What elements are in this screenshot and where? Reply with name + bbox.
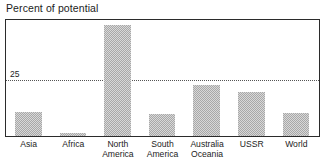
bar bbox=[238, 92, 265, 136]
x-axis-category-label: World bbox=[274, 139, 319, 149]
x-axis-category-label: Asia bbox=[6, 139, 51, 149]
bar bbox=[104, 25, 131, 136]
x-axis-category-label: USSR bbox=[229, 139, 274, 149]
x-axis-category-label: Australia Oceania bbox=[185, 139, 230, 159]
chart-title: Percent of potential bbox=[6, 2, 98, 15]
y-axis-tick-label: 25 bbox=[10, 70, 19, 79]
gridline-25 bbox=[6, 80, 319, 81]
plot-frame: 25 bbox=[5, 19, 320, 137]
bar bbox=[283, 113, 310, 136]
bar bbox=[15, 112, 42, 136]
x-axis-category-label: Africa bbox=[51, 139, 96, 149]
bar-chart-figure: Percent of potential 25 AsiaAfricaNorth … bbox=[0, 0, 328, 165]
x-axis-category-label: South America bbox=[140, 139, 185, 159]
x-axis-category-label: North America bbox=[96, 139, 141, 159]
bar bbox=[60, 133, 87, 136]
bar bbox=[193, 85, 220, 136]
bar bbox=[149, 114, 176, 136]
plot-area: 25 bbox=[6, 20, 319, 136]
